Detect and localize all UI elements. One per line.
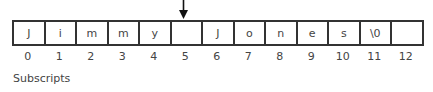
subscripts-caption: Subscripts [13, 72, 70, 85]
array-cell: J [14, 22, 46, 44]
array-cell: e [298, 22, 330, 44]
subscript-label: 10 [327, 50, 359, 63]
array-cell [392, 22, 424, 44]
array-cell [172, 22, 204, 44]
array-cell: o [235, 22, 267, 44]
subscript-label: 6 [201, 50, 233, 63]
array-cell: J [203, 22, 235, 44]
array-cell: y [140, 22, 172, 44]
subscript-label: 9 [296, 50, 328, 63]
subscript-label: 1 [44, 50, 76, 63]
array-cell: m [77, 22, 109, 44]
char-array: J i m m y J o n e s \0 [12, 20, 424, 46]
down-arrow-icon [179, 0, 188, 19]
subscript-label: 8 [264, 50, 296, 63]
subscript-label: 2 [75, 50, 107, 63]
subscript-label: 4 [138, 50, 170, 63]
array-cell: s [329, 22, 361, 44]
array-cell: \0 [361, 22, 393, 44]
subscript-label: 7 [233, 50, 265, 63]
subscript-label: 0 [12, 50, 44, 63]
subscript-label: 5 [170, 50, 202, 63]
subscript-label: 11 [359, 50, 391, 63]
subscript-row: 0 1 2 3 4 5 6 7 8 9 10 11 12 [12, 50, 422, 63]
subscript-label: 3 [107, 50, 139, 63]
array-cell: n [266, 22, 298, 44]
array-cell: m [109, 22, 141, 44]
subscript-label: 12 [390, 50, 422, 63]
array-cell: i [46, 22, 78, 44]
